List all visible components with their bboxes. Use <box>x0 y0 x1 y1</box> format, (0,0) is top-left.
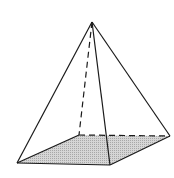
hidden-edge-apex-back-left <box>79 22 92 135</box>
pyramid-diagram <box>0 0 174 178</box>
pyramid-base-face <box>17 135 170 165</box>
